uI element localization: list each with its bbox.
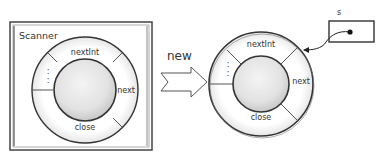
right-object-core [233,56,289,112]
right-method-ellipsis-2: : [227,69,230,78]
scanner-box-label: Scanner [19,30,58,41]
right-method-nextint: nextInt [247,40,275,49]
left-method-close: close [75,123,96,132]
left-method-nextint: nextInt [71,48,99,57]
reference-variable-name: s [337,8,341,17]
right-method-ellipsis-1: : [227,60,230,69]
right-method-close: close [251,113,272,122]
new-label: new [167,49,192,63]
left-object-core [54,59,116,121]
right-method-next: next [292,77,310,86]
diagram-canvas: Scanner nextInt next close : : new nextI… [0,0,382,159]
left-method-next: next [117,86,135,95]
new-arrow-icon [161,67,207,97]
left-method-ellipsis-2: : [47,76,50,85]
left-method-ellipsis-1: : [47,67,50,76]
